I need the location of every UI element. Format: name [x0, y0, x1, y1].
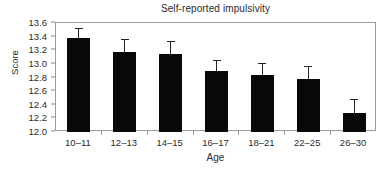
y-tick-label: 13.4 [29, 30, 48, 41]
x-tick-label: 26–30 [340, 137, 366, 148]
error-bar-cap [304, 66, 312, 67]
x-tick-mark [330, 131, 331, 135]
error-bar-stem [216, 60, 217, 71]
x-tick-mark [147, 131, 148, 135]
x-axis-label: Age [55, 152, 376, 163]
error-bar-cap [121, 39, 129, 40]
error-bar-stem [262, 63, 263, 75]
bar [297, 79, 320, 132]
y-tick-label: 12.8 [29, 71, 48, 82]
x-tick-label: 16–17 [202, 137, 228, 148]
chart-figure: Self-reported impulsivity Score 12.012.2… [0, 0, 390, 174]
x-tick-label: 18–21 [248, 137, 274, 148]
x-tick-label: 10–11 [65, 137, 91, 148]
y-axis: 12.012.212.412.612.813.013.213.413.6 [0, 22, 55, 131]
plot-inner [56, 23, 375, 130]
error-bar-cap [75, 28, 83, 29]
x-tick-mark [101, 131, 102, 135]
y-tick-label: 13.0 [29, 57, 48, 68]
y-tick-label: 12.6 [29, 85, 48, 96]
x-tick-mark [284, 131, 285, 135]
x-tick-label: 12–13 [111, 137, 137, 148]
x-tick-mark [238, 131, 239, 135]
x-tick-label: 22–25 [294, 137, 320, 148]
x-tick-mark [193, 131, 194, 135]
bar [343, 113, 366, 132]
bar [251, 75, 274, 132]
y-tick-label: 12.4 [29, 98, 48, 109]
y-tick-label: 13.2 [29, 44, 48, 55]
error-bar-cap [167, 41, 175, 42]
x-tick-label: 14–15 [156, 137, 182, 148]
error-bar-cap [258, 63, 266, 64]
y-tick-label: 12.0 [29, 126, 48, 137]
bar [67, 38, 90, 132]
bar [205, 71, 228, 132]
error-bar-stem [354, 99, 355, 113]
error-bar-stem [308, 66, 309, 79]
error-bar-stem [124, 39, 125, 52]
y-tick-label: 13.6 [29, 17, 48, 28]
error-bar-stem [170, 41, 171, 53]
bar [113, 52, 136, 132]
error-bar-stem [78, 28, 79, 38]
plot-area [55, 22, 376, 131]
bar [159, 54, 182, 132]
chart-title: Self-reported impulsivity [55, 3, 376, 14]
x-axis: 10–1112–1314–1516–1718–2122–2526–30 [55, 131, 376, 151]
y-tick-label: 12.2 [29, 112, 48, 123]
error-bar-cap [213, 60, 221, 61]
error-bar-cap [350, 99, 358, 100]
